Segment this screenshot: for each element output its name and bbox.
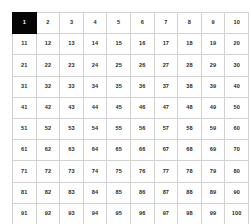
number-cell-85[interactable]: 85 [107, 182, 131, 203]
number-cell-80[interactable]: 80 [225, 161, 249, 182]
number-cell-2[interactable]: 2 [36, 13, 60, 34]
number-cell-76[interactable]: 76 [130, 161, 154, 182]
number-cell-77[interactable]: 77 [154, 161, 178, 182]
number-cell-62[interactable]: 62 [36, 140, 60, 161]
number-cell-5[interactable]: 5 [107, 13, 131, 34]
number-cell-94[interactable]: 94 [83, 203, 107, 224]
number-cell-86[interactable]: 86 [130, 182, 154, 203]
number-cell-41[interactable]: 41 [13, 97, 37, 118]
number-cell-10[interactable]: 10 [225, 13, 249, 34]
number-cell-36[interactable]: 36 [130, 76, 154, 97]
number-cell-53[interactable]: 53 [60, 118, 84, 139]
number-cell-8[interactable]: 8 [178, 13, 202, 34]
hundreds-chart-grid[interactable]: 1234567891011121314151617181920212223242… [12, 12, 249, 224]
number-cell-31[interactable]: 31 [13, 76, 37, 97]
number-cell-61[interactable]: 61 [13, 140, 37, 161]
number-cell-52[interactable]: 52 [36, 118, 60, 139]
number-cell-46[interactable]: 46 [130, 97, 154, 118]
number-cell-32[interactable]: 32 [36, 76, 60, 97]
number-cell-71[interactable]: 71 [13, 161, 37, 182]
number-cell-43[interactable]: 43 [60, 97, 84, 118]
number-cell-96[interactable]: 96 [130, 203, 154, 224]
number-cell-69[interactable]: 69 [201, 140, 225, 161]
number-cell-45[interactable]: 45 [107, 97, 131, 118]
number-cell-3[interactable]: 3 [60, 13, 84, 34]
number-cell-83[interactable]: 83 [60, 182, 84, 203]
number-cell-81[interactable]: 81 [13, 182, 37, 203]
number-cell-21[interactable]: 21 [13, 55, 37, 76]
number-cell-92[interactable]: 92 [36, 203, 60, 224]
number-cell-19[interactable]: 19 [201, 34, 225, 55]
number-cell-11[interactable]: 11 [13, 34, 37, 55]
number-cell-12[interactable]: 12 [36, 34, 60, 55]
number-cell-55[interactable]: 55 [107, 118, 131, 139]
number-cell-4[interactable]: 4 [83, 13, 107, 34]
number-cell-49[interactable]: 49 [201, 97, 225, 118]
number-cell-60[interactable]: 60 [225, 118, 249, 139]
number-cell-56[interactable]: 56 [130, 118, 154, 139]
number-cell-30[interactable]: 30 [225, 55, 249, 76]
number-cell-58[interactable]: 58 [178, 118, 202, 139]
number-cell-100[interactable]: 100 [225, 203, 249, 224]
number-cell-20[interactable]: 20 [225, 34, 249, 55]
number-cell-34[interactable]: 34 [83, 76, 107, 97]
number-cell-9[interactable]: 9 [201, 13, 225, 34]
number-cell-65[interactable]: 65 [107, 140, 131, 161]
number-cell-54[interactable]: 54 [83, 118, 107, 139]
number-cell-51[interactable]: 51 [13, 118, 37, 139]
number-cell-59[interactable]: 59 [201, 118, 225, 139]
number-cell-23[interactable]: 23 [60, 55, 84, 76]
number-cell-38[interactable]: 38 [178, 76, 202, 97]
number-cell-50[interactable]: 50 [225, 97, 249, 118]
number-cell-48[interactable]: 48 [178, 97, 202, 118]
number-cell-39[interactable]: 39 [201, 76, 225, 97]
number-cell-79[interactable]: 79 [201, 161, 225, 182]
number-cell-40[interactable]: 40 [225, 76, 249, 97]
number-cell-18[interactable]: 18 [178, 34, 202, 55]
number-cell-29[interactable]: 29 [201, 55, 225, 76]
number-cell-25[interactable]: 25 [107, 55, 131, 76]
number-cell-7[interactable]: 7 [154, 13, 178, 34]
number-cell-89[interactable]: 89 [201, 182, 225, 203]
number-cell-44[interactable]: 44 [83, 97, 107, 118]
number-cell-98[interactable]: 98 [178, 203, 202, 224]
number-cell-90[interactable]: 90 [225, 182, 249, 203]
number-cell-33[interactable]: 33 [60, 76, 84, 97]
number-cell-16[interactable]: 16 [130, 34, 154, 55]
number-cell-87[interactable]: 87 [154, 182, 178, 203]
number-cell-14[interactable]: 14 [83, 34, 107, 55]
number-cell-35[interactable]: 35 [107, 76, 131, 97]
number-cell-6[interactable]: 6 [130, 13, 154, 34]
number-cell-91[interactable]: 91 [13, 203, 37, 224]
number-cell-22[interactable]: 22 [36, 55, 60, 76]
number-cell-88[interactable]: 88 [178, 182, 202, 203]
number-cell-26[interactable]: 26 [130, 55, 154, 76]
number-cell-63[interactable]: 63 [60, 140, 84, 161]
number-cell-57[interactable]: 57 [154, 118, 178, 139]
number-cell-47[interactable]: 47 [154, 97, 178, 118]
number-cell-82[interactable]: 82 [36, 182, 60, 203]
number-cell-27[interactable]: 27 [154, 55, 178, 76]
number-cell-17[interactable]: 17 [154, 34, 178, 55]
number-cell-64[interactable]: 64 [83, 140, 107, 161]
number-cell-93[interactable]: 93 [60, 203, 84, 224]
number-cell-1[interactable]: 1 [13, 13, 37, 34]
number-cell-66[interactable]: 66 [130, 140, 154, 161]
number-cell-84[interactable]: 84 [83, 182, 107, 203]
number-cell-95[interactable]: 95 [107, 203, 131, 224]
number-cell-67[interactable]: 67 [154, 140, 178, 161]
number-cell-13[interactable]: 13 [60, 34, 84, 55]
number-cell-99[interactable]: 99 [201, 203, 225, 224]
number-cell-73[interactable]: 73 [60, 161, 84, 182]
number-cell-37[interactable]: 37 [154, 76, 178, 97]
number-cell-68[interactable]: 68 [178, 140, 202, 161]
number-cell-28[interactable]: 28 [178, 55, 202, 76]
number-cell-42[interactable]: 42 [36, 97, 60, 118]
number-cell-75[interactable]: 75 [107, 161, 131, 182]
number-cell-78[interactable]: 78 [178, 161, 202, 182]
number-cell-24[interactable]: 24 [83, 55, 107, 76]
number-cell-70[interactable]: 70 [225, 140, 249, 161]
number-cell-97[interactable]: 97 [154, 203, 178, 224]
number-cell-74[interactable]: 74 [83, 161, 107, 182]
number-cell-15[interactable]: 15 [107, 34, 131, 55]
